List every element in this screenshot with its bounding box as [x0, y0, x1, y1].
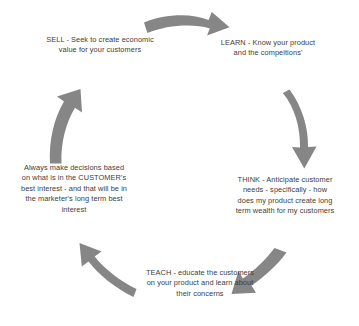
stage-label-principle: Always make decisions based on what is i… — [20, 163, 128, 215]
stage-label-sell: SELL - Seek to create economic value for… — [44, 35, 156, 56]
arrow-principle-to-sell-icon — [50, 89, 82, 164]
arrow-teach-to-principle-icon — [80, 243, 137, 297]
stage-label-learn: LEARN - Know your product and the compei… — [216, 38, 320, 59]
arrow-sell-to-learn-icon — [144, 12, 230, 36]
stage-label-think: THINK - Anticipate customer needs - spec… — [234, 175, 336, 217]
cycle-diagram: SELL - Seek to create economic value for… — [0, 0, 359, 326]
arrow-learn-to-think-icon — [283, 90, 317, 169]
stage-label-teach: TEACH - educate the customers on your pr… — [142, 268, 258, 299]
